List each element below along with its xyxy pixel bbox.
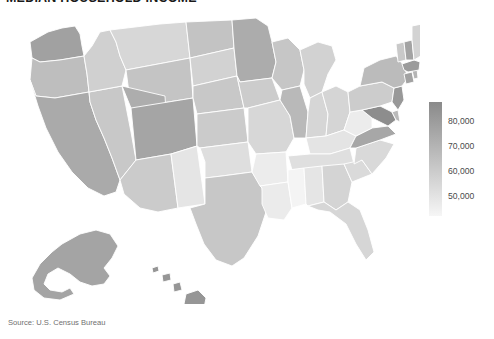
state-KS[interactable] (197, 108, 248, 148)
state-AR[interactable] (252, 152, 288, 186)
state-ME[interactable] (412, 24, 420, 60)
state-WI[interactable] (272, 38, 304, 90)
state-WA[interactable] (30, 26, 84, 62)
color-legend: 80,000 70,000 60,000 50,000 (429, 102, 491, 218)
state-MN[interactable] (232, 18, 276, 82)
source-note: Source: U.S. Census Bureau (8, 318, 106, 327)
legend-gradient-bar (429, 102, 442, 216)
state-HI-2[interactable] (162, 273, 171, 282)
state-MA[interactable] (402, 60, 420, 72)
us-map-svg (0, 12, 420, 304)
state-PA[interactable] (348, 82, 394, 112)
state-AK[interactable] (32, 230, 118, 300)
legend-tick-label-60000: 60,000 (448, 167, 474, 176)
legend-tick-label-70000: 70,000 (448, 142, 474, 151)
state-AL[interactable] (304, 166, 324, 206)
legend-tick-label-80000: 80,000 (448, 117, 474, 126)
state-OR[interactable] (30, 56, 89, 98)
us-map (0, 12, 420, 304)
legend-tick-label-50000: 50,000 (448, 192, 474, 201)
page-title: MEDIAN HOUSEHOLD INCOME (6, 0, 197, 5)
state-NJ[interactable] (392, 86, 404, 110)
state-HI-4[interactable] (184, 290, 206, 304)
state-HI-3[interactable] (173, 282, 182, 292)
state-HI-1[interactable] (152, 266, 159, 273)
choropleth-chart: MEDIAN HOUSEHOLD INCOME (0, 0, 494, 339)
state-MS[interactable] (288, 168, 306, 208)
state-FL[interactable] (308, 202, 374, 260)
